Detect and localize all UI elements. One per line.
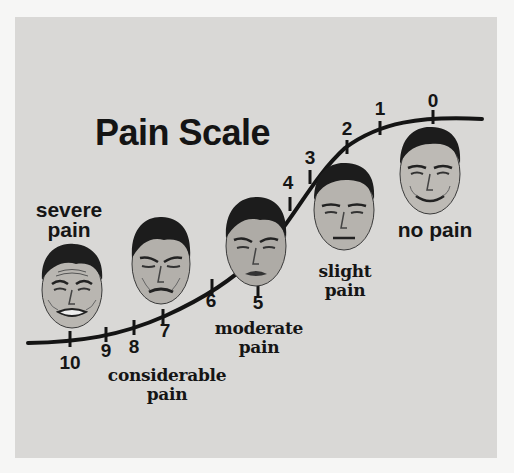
label-considerable-line1: considerable (104, 366, 230, 385)
tick-label-4: 4 (283, 172, 294, 194)
tick-label-8: 8 (129, 336, 140, 358)
tick-label-2: 2 (342, 118, 353, 140)
label-severe-line2: pain (34, 220, 104, 240)
tick-label-1: 1 (375, 98, 386, 120)
label-no-pain: no pain (393, 220, 477, 240)
label-severe-pain: severe pain (34, 200, 104, 240)
label-severe-line1: severe (34, 200, 104, 220)
label-slight-line2: pain (313, 281, 377, 300)
face-considerable-pain-icon (128, 214, 194, 308)
tick-label-0: 0 (428, 90, 439, 112)
label-moderate-pain: moderate pain (212, 319, 306, 357)
face-moderate-pain-icon (222, 194, 290, 290)
face-severe-pain-icon (36, 240, 108, 332)
face-slight-pain-icon (310, 160, 378, 254)
tick-label-6: 6 (206, 290, 217, 312)
tick-label-5: 5 (253, 292, 264, 314)
tick-label-10: 10 (59, 352, 80, 374)
label-moderate-line2: pain (212, 338, 306, 357)
tick-label-9: 9 (101, 340, 112, 362)
label-moderate-line1: moderate (212, 319, 306, 338)
label-considerable-line2: pain (104, 385, 230, 404)
face-no-pain-icon (396, 124, 464, 218)
label-slight-pain: slight pain (313, 262, 377, 300)
tick-label-7: 7 (160, 320, 171, 342)
label-slight-line1: slight (313, 262, 377, 281)
label-considerable-pain: considerable pain (104, 366, 230, 404)
